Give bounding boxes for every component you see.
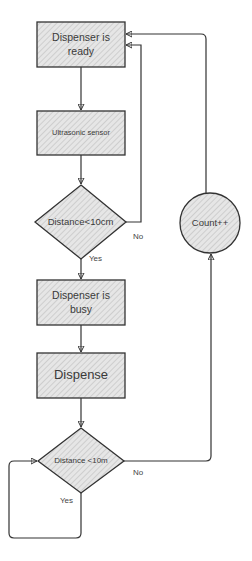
edge-count-to-ready <box>126 34 206 193</box>
edge-label-check2-yes: Yes <box>60 496 73 505</box>
node-check2-diamond <box>38 428 124 493</box>
node-check1-diamond <box>35 185 126 259</box>
edge-label-check1-yes: Yes <box>89 254 102 263</box>
node-ready-box <box>37 22 125 67</box>
edge-check2-no-to-count <box>124 254 211 461</box>
node-dispense-box <box>37 353 125 398</box>
edge-check1-no-to-ready <box>126 45 141 222</box>
flowchart-canvas <box>0 0 252 561</box>
node-count-circle <box>180 193 240 253</box>
node-busy-box <box>37 280 125 325</box>
edge-label-check1-no: No <box>133 232 143 241</box>
edge-label-check2-no: No <box>133 468 143 477</box>
node-sensor-box <box>37 111 125 155</box>
